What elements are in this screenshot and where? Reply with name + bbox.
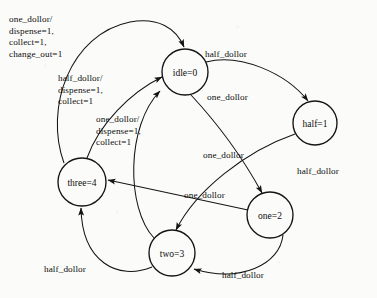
edge-one-to-three-one-dollor [108, 180, 248, 210]
edge-one-to-two-half-dollor [194, 235, 283, 274]
edge-label-half-dollor-floating: half_dollor [297, 166, 339, 178]
edge-label-half-dollor-dispense: half_dollor/ dispense=1, collect=1 [58, 73, 103, 108]
edge-label-half-dollor-idle-to-half: half_dollor [205, 49, 247, 61]
edge-label-one-dollor-one-to-three: one_dollor [184, 190, 225, 202]
state-label-half: half=1 [303, 119, 328, 129]
state-label-three: three=4 [67, 178, 96, 188]
edge-label-one-dollor-half-to-one: one_dollor [203, 150, 244, 162]
edge-label-one-dollor-change-out: one_dollor/ dispense=1, collect=1, chang… [9, 14, 62, 60]
fsm-diagram: idle=0 half=1 three=4 two=3 one=2 one_do… [0, 0, 377, 298]
state-label-two: two=3 [160, 249, 185, 259]
edge-label-half-dollor-two-to-three: half_dollor [44, 264, 86, 276]
edge-label-half-dollor-one-to-two: half_dollor [222, 270, 264, 282]
edge-idle-to-one-one-dollor [191, 95, 262, 193]
edge-label-one-dollor-idle-to-one: one_dollor [207, 92, 248, 104]
edge-label-one-dollor-dispense: one_dollor/ dispense=1, collect=1 [96, 114, 141, 149]
state-label-one: one=2 [258, 211, 282, 221]
state-label-idle: idle=0 [173, 68, 198, 78]
